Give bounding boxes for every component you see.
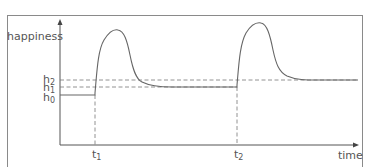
y-axis-arrow-icon: [58, 19, 63, 25]
y-axis-label: happiness: [7, 30, 63, 43]
t2-label: t2: [234, 148, 243, 162]
happiness-curve: [60, 23, 358, 95]
x-axis-arrow-icon: [353, 143, 359, 148]
t1-label: t1: [92, 148, 101, 162]
happiness-chart: happiness h2 h1 h0 t1 t2 time: [0, 0, 367, 167]
x-axis-label: time: [338, 149, 363, 162]
